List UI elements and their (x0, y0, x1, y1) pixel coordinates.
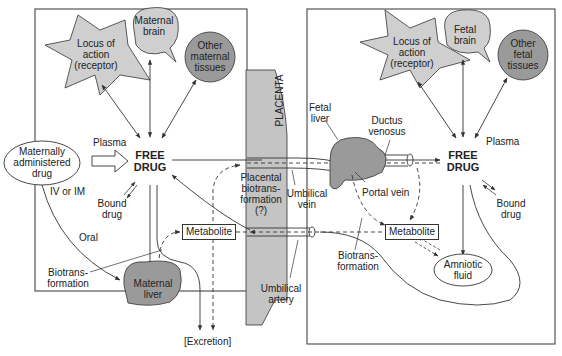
umbilical-artery-label: Umbilical artery (258, 283, 304, 305)
placenta-label: PLACENTA (274, 71, 285, 131)
maternal-plasma-label: Plasma (93, 137, 126, 148)
fetal-free-drug-label: FREE DRUG (443, 149, 483, 173)
placental-biotransformation-label: Placental biotrans- formation (?) (231, 172, 291, 216)
maternal-liver-label: Maternal liver (130, 278, 176, 300)
maternal-free-drug-label: FREE DRUG (130, 149, 170, 173)
portal-vein-label: Portal vein (362, 187, 409, 198)
hollow-arrow-icon (92, 150, 128, 172)
maternal-bound-drug-label: Bound drug (95, 198, 129, 220)
maternal-metabolite-box: Metabolite (182, 224, 236, 240)
fetal-locus-label: Locus of action (receptor) (382, 36, 442, 69)
fetal-bound-drug-label: Bound drug (494, 198, 528, 220)
umbilical-vein-label: Umbilical vein (284, 188, 330, 210)
maternal-biotransformation-label: Biotrans- formation (42, 267, 94, 289)
fetal-metabolite-box: Metabolite (385, 224, 439, 240)
fetal-biotransformation-label: Biotrans- formation (332, 250, 384, 272)
iv-im-label: IV or IM (50, 186, 85, 197)
amniotic-fluid-label: Amniotic fluid (440, 259, 486, 281)
ductus-venosus-label: Ductus venosus (365, 115, 409, 137)
maternal-other-tissues-label: Other maternal tissues (186, 40, 234, 73)
excretion-label: [Excretion] (184, 336, 231, 347)
fetal-other-tissues-label: Other fetal tissues (499, 38, 547, 71)
fetal-liver-label: Fetal liver (302, 102, 338, 124)
fetal-liver-shape (330, 137, 386, 189)
administered-drug-label: Maternally administered drug (4, 146, 80, 179)
fetal-plasma-label: Plasma (486, 136, 519, 147)
maternal-locus-label: Locus of action (receptor) (66, 38, 126, 71)
fetal-brain-label: Fetal brain (445, 24, 485, 46)
maternal-brain-label: Maternal brain (130, 15, 178, 37)
oral-label: Oral (79, 232, 98, 243)
